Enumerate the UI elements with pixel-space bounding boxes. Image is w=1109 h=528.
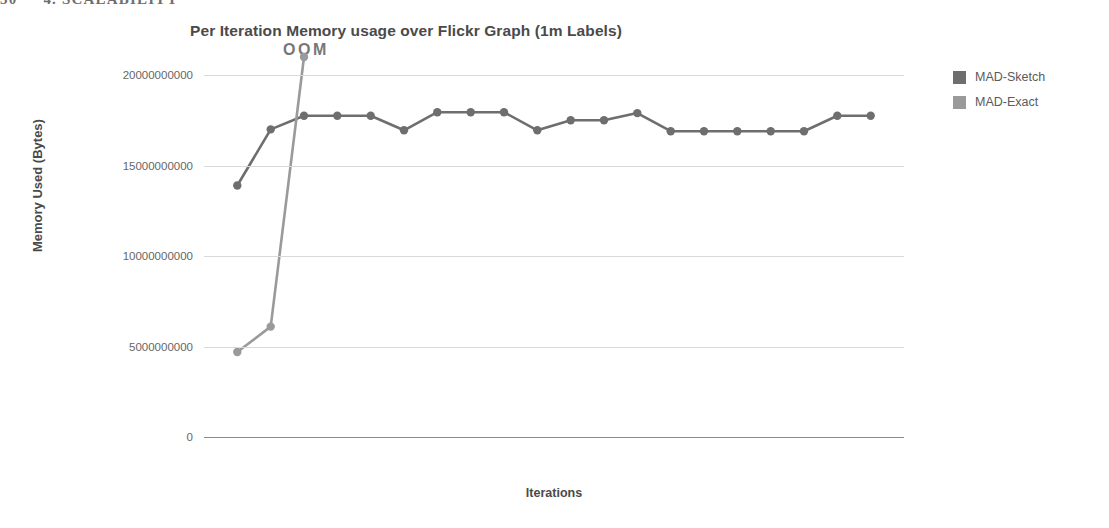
gridline-10000000000 — [204, 256, 904, 257]
gridline-20000000000 — [204, 75, 904, 76]
legend-item-mad-exact[interactable]: MAD-Exact — [953, 95, 1045, 109]
chart-figure: Per Iteration Memory usage over Flickr G… — [0, 0, 1109, 528]
legend-item-mad-sketch[interactable]: MAD-Sketch — [953, 70, 1045, 84]
gridline-5000000000 — [204, 347, 904, 348]
legend-label-mad-exact: MAD-Exact — [975, 95, 1038, 109]
y-tick-label-10000000000: 10000000000 — [123, 250, 193, 262]
legend-swatch-mad-exact — [953, 96, 966, 109]
gridline-15000000000 — [204, 166, 904, 167]
y-tick-label-0: 0 — [187, 431, 193, 443]
gridlines: 2000000000015000000000100000000005000000… — [204, 57, 904, 437]
plot-area: 2000000000015000000000100000000005000000… — [204, 57, 904, 437]
legend-label-mad-sketch: MAD-Sketch — [975, 70, 1045, 84]
chart-legend: MAD-Sketch MAD-Exact — [953, 70, 1045, 109]
legend-swatch-mad-sketch — [953, 71, 966, 84]
x-axis-title: Iterations — [204, 486, 904, 500]
gridline-0 — [204, 437, 904, 438]
y-tick-label-15000000000: 15000000000 — [123, 160, 193, 172]
y-tick-label-20000000000: 20000000000 — [123, 69, 193, 81]
chart-title: Per Iteration Memory usage over Flickr G… — [190, 22, 890, 40]
y-axis-title: Memory Used (Bytes) — [30, 119, 45, 252]
y-tick-label-5000000000: 5000000000 — [129, 341, 193, 353]
